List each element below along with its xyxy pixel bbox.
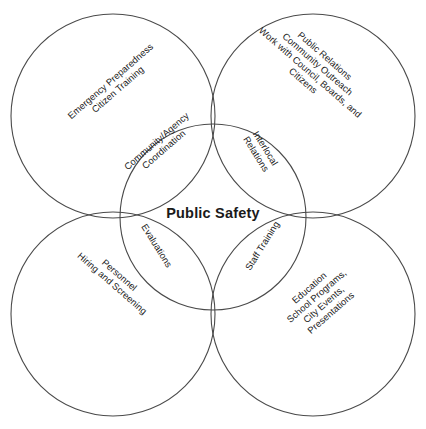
circle-bottom-left <box>11 212 215 416</box>
venn-circles-group <box>0 0 426 429</box>
circle-center <box>120 124 306 310</box>
circle-top-left <box>11 14 215 218</box>
circle-bottom-right <box>211 212 415 416</box>
circle-top-right <box>211 14 415 218</box>
venn-diagram-canvas: Emergency Preparedness Citizen Training … <box>0 0 426 429</box>
